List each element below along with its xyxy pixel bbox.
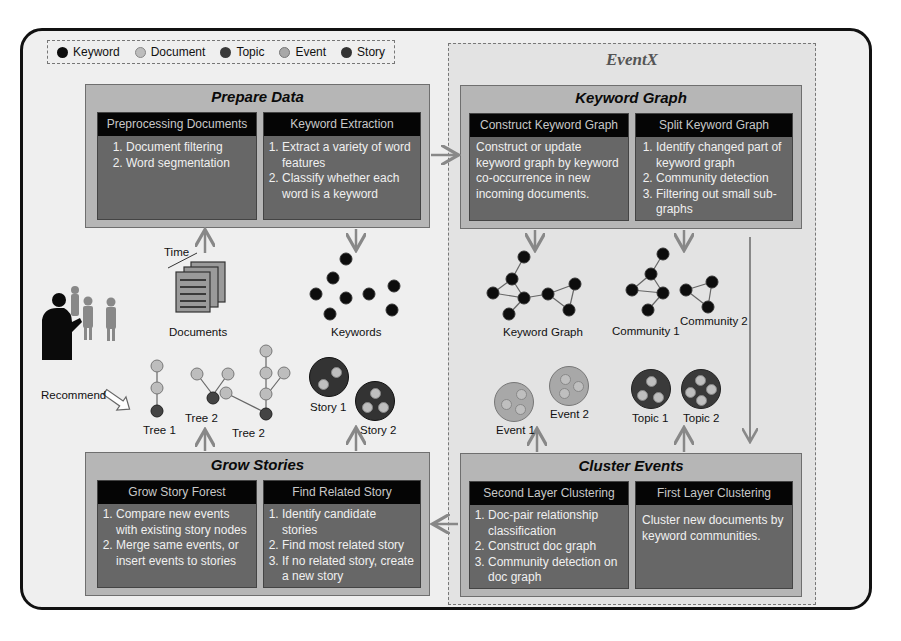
event-node-icon [191, 368, 204, 381]
legend-label: Document [151, 45, 206, 59]
event-node-icon [260, 388, 273, 401]
panel-split-keyword-graph: Split Keyword Graph Identify changed par… [635, 113, 793, 221]
stage-grow-stories: Grow Stories Grow Story Forest Compare n… [85, 452, 430, 596]
panel-second-layer-clustering: Second Layer Clustering Doc-pair relatio… [469, 481, 629, 589]
legend-item-keyword: Keyword [57, 45, 120, 59]
keyword-node-icon [340, 253, 353, 266]
keyword-node-icon [388, 280, 401, 293]
keyword-node-icon [518, 251, 531, 264]
panel-header: Grow Story Forest [98, 481, 256, 504]
stage-title: Cluster Events [461, 457, 801, 474]
keyword-node-icon [626, 284, 639, 297]
list-item: Word segmentation [126, 156, 250, 172]
eventx-title: EventX [448, 50, 816, 70]
list-item: If no related story, create a new story [282, 554, 414, 585]
tree-2a-label: Tree 2 [185, 412, 218, 424]
event-1-cluster [494, 382, 534, 422]
topic-2-cluster [681, 369, 721, 409]
panel-body: Identify changed part of keyword graph C… [636, 137, 792, 218]
keyword-node-icon [324, 308, 337, 321]
keyword-node-icon [310, 288, 323, 301]
panel-find-related-story: Find Related Story Identify candidate st… [263, 480, 421, 588]
story-node-icon [260, 408, 273, 421]
list-item: Identify changed part of keyword graph [656, 140, 786, 171]
keyword-node-icon [680, 284, 693, 297]
topic-node-icon [220, 47, 231, 58]
stage-cluster-events: Cluster Events Second Layer Clustering D… [460, 453, 802, 597]
event-2-cluster [549, 366, 589, 406]
story-node-icon [207, 392, 220, 405]
people-silhouette-icon [40, 285, 120, 360]
tree-1-label: Tree 1 [143, 424, 176, 436]
story-1-cluster [309, 357, 349, 397]
keyword-node-icon [487, 287, 500, 300]
legend-label: Story [357, 45, 385, 59]
legend: Keyword Document Topic Event Story [47, 40, 395, 64]
document-node-icon [135, 47, 146, 58]
legend-label: Keyword [73, 45, 120, 59]
keyword-node-icon [503, 308, 516, 321]
panel-header: Second Layer Clustering [470, 482, 628, 505]
panel-header: Split Keyword Graph [636, 114, 792, 137]
story-1-label: Story 1 [310, 401, 346, 413]
panel-body: Compare new events with existing story n… [98, 504, 256, 569]
event-node-icon [151, 360, 164, 373]
panel-body: Document filtering Word segmentation [98, 136, 256, 171]
stage-keyword-graph: Keyword Graph Construct Keyword Graph Co… [460, 85, 802, 229]
panel-header: Preprocessing Documents [98, 113, 256, 136]
list-item: Filtering out small sub-graphs [656, 187, 786, 218]
panel-construct-keyword-graph: Construct Keyword Graph Construct or upd… [469, 113, 629, 221]
keyword-node-icon [702, 301, 715, 314]
event-node-icon [279, 47, 290, 58]
keyword-node-icon [506, 273, 519, 286]
list-item: Identify candidate stories [282, 507, 414, 538]
community-2-label: Community 2 [680, 315, 748, 327]
keyword-node-icon [57, 47, 68, 58]
legend-label: Topic [236, 45, 264, 59]
list-item: Community detection [656, 171, 786, 187]
list-item: Compare new events with existing story n… [116, 507, 250, 538]
list-item: Community detection on doc graph [488, 555, 622, 586]
list-item: Document filtering [126, 140, 250, 156]
list-item: Find most related story [282, 538, 414, 554]
panel-body: Cluster new documents by keyword communi… [636, 505, 792, 544]
event-node-icon [278, 367, 291, 380]
panel-header: Construct Keyword Graph [470, 114, 628, 137]
story-2-cluster [355, 381, 395, 421]
event-node-icon [260, 345, 273, 358]
panel-preprocessing-documents: Preprocessing Documents Document filteri… [97, 112, 257, 220]
keyword-node-icon [327, 272, 340, 285]
legend-item-event: Event [279, 45, 326, 59]
legend-item-story: Story [341, 45, 385, 59]
topic-1-label: Topic 1 [632, 412, 668, 424]
keyword-graph-label: Keyword Graph [503, 326, 583, 338]
keyword-node-icon [657, 287, 670, 300]
event-node-icon [222, 368, 235, 381]
panel-body: Construct or update keyword graph by key… [470, 137, 628, 202]
panel-header: Keyword Extraction [264, 113, 420, 136]
tree-2b-label: Tree 2 [232, 427, 265, 439]
keyword-node-icon [518, 292, 531, 305]
event-node-icon [260, 367, 273, 380]
stage-prepare-data: Prepare Data Preprocessing Documents Doc… [85, 84, 430, 228]
event-node-icon [151, 382, 164, 395]
panel-body: Identify candidate stories Find most rel… [264, 504, 420, 585]
stage-title: Prepare Data [86, 88, 429, 105]
panel-keyword-extraction: Keyword Extraction Extract a variety of … [263, 112, 421, 220]
panel-header: First Layer Clustering [636, 482, 792, 505]
recommend-label: Recommend [41, 389, 106, 401]
keyword-node-icon [542, 288, 555, 301]
stage-title: Grow Stories [86, 456, 429, 473]
list-item: Classify whether each word is a keyword [282, 171, 414, 202]
panel-body: Doc-pair relationship classification Con… [470, 505, 628, 586]
list-item: Extract a variety of word features [282, 140, 414, 171]
legend-label: Event [295, 45, 326, 59]
keyword-node-icon [569, 278, 582, 291]
panel-header: Find Related Story [264, 481, 420, 504]
list-item: Merge same events, or insert events to s… [116, 538, 250, 569]
topic-2-label: Topic 2 [683, 412, 719, 424]
documents-label: Documents [169, 326, 227, 338]
keyword-node-icon [386, 304, 399, 317]
topic-1-cluster [631, 369, 671, 409]
legend-item-topic: Topic [220, 45, 264, 59]
